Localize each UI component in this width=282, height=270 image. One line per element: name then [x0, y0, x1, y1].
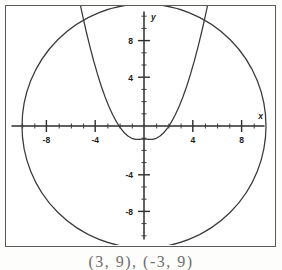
figure-page: -8 -4 4 8 8 4 -4 -8 y x (3, 9), (-3, 9) [0, 0, 282, 270]
figure-caption: (3, 9), (-3, 9) [0, 256, 282, 270]
figure-frame: -8 -4 4 8 8 4 -4 -8 y x [5, 5, 276, 247]
figure-caption-clip: (3, 9), (-3, 9) [0, 256, 282, 270]
x-axis-label: x [257, 111, 264, 121]
y-tick-label--4: -4 [125, 170, 133, 180]
y-tick-label-8: 8 [128, 36, 133, 46]
y-axis-label: y [150, 12, 157, 22]
x-tick-label--4: -4 [91, 135, 99, 145]
x-tick-label-4: 4 [190, 135, 195, 145]
x-tick-label-8: 8 [239, 135, 244, 145]
x-tick-label--8: -8 [43, 135, 51, 145]
coordinate-plot: -8 -4 4 8 8 4 -4 -8 y x [6, 6, 274, 245]
y-tick-label-4: 4 [128, 73, 133, 83]
y-tick-label--8: -8 [125, 207, 133, 217]
